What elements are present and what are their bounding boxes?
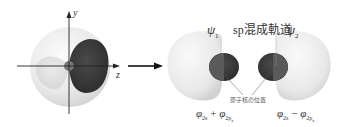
right-arrow-icon [128,63,163,70]
left-orbital-figure [17,11,120,114]
y-axis-arrowhead [67,11,72,18]
psi1-label: ψ1 [207,23,219,40]
psi1-formula: φ2s + φ2pz [196,108,233,123]
psi1-symbol: ψ [207,22,215,37]
psi2-label: ψ2 [287,23,299,40]
z-axis-label: z [116,70,120,80]
z-axis-arrowhead [113,64,120,69]
diagram-title: sp混成軌道 [233,24,292,36]
psi1-index: 1 [215,32,219,40]
psi2-index: 2 [295,32,299,40]
phi-sub-subscript: z [312,118,314,123]
y-axis-label: y [73,8,77,18]
sp-hybrid-orbital-diagram: y z ψ1 sp混成軌道 ψ2 原子核の位置 φ2s + φ2pz φ2s −… [0,0,340,127]
plus-operator: + [207,107,219,119]
psi1-small-lobe [209,53,239,81]
right-orbital-figure [167,31,330,100]
psi2-symbol: ψ [287,22,295,37]
psi2-formula: φ2s − φ2pz [277,108,314,123]
nucleus-position-label: 原子核の位置 [230,97,266,103]
psi2-small-lobe [258,53,288,81]
phi-sub-subscript: z [231,118,233,123]
minus-operator: − [288,107,300,119]
